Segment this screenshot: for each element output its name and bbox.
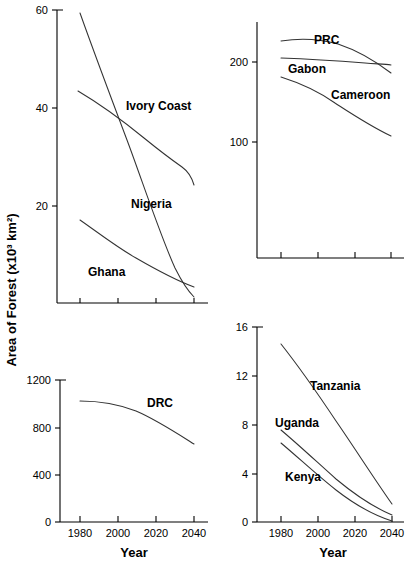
panel4-label-tanzania: Tanzania [310, 379, 361, 393]
forest-area-figure: Area of Forest (x10³ km²) 60 40 20 Ivory… [0, 0, 416, 565]
panel2-label-prc: PRC [314, 33, 340, 47]
panel2-ylabel-100: 100 [230, 136, 248, 148]
panel3-x-axis-title: Year [120, 545, 147, 560]
panel4-label-uganda: Uganda [275, 416, 319, 430]
panel4-ylabel-4: 4 [242, 468, 248, 480]
panel1-ylabel-20: 20 [36, 200, 48, 212]
panel3-xlabel-1980: 1980 [68, 527, 92, 539]
panel4-xlabel-2020: 2020 [343, 527, 367, 539]
panel3-ylabel-400: 400 [33, 469, 51, 481]
panel4-xlabel-2000: 2000 [306, 527, 330, 539]
panel-bottom-left: 1200 800 400 0 1980 2000 2020 2040 DRC Y… [27, 374, 208, 560]
panel4-x-axis-title: Year [319, 545, 346, 560]
panel3-ylabel-1200: 1200 [27, 374, 51, 386]
panel3-ylabel-800: 800 [33, 422, 51, 434]
panel1-label-ivory-coast: Ivory Coast [126, 99, 191, 113]
panel1-label-ghana: Ghana [88, 265, 126, 279]
panel3-ylabel-0: 0 [45, 516, 51, 528]
panel4-ylabel-8: 8 [242, 419, 248, 431]
panel2-label-gabon: Gabon [288, 62, 326, 76]
panel4-xlabel-2040: 2040 [380, 527, 404, 539]
panel3-label-drc: DRC [147, 396, 173, 410]
panel3-xlabel-2000: 2000 [106, 527, 130, 539]
panel3-xlabel-2020: 2020 [144, 527, 168, 539]
y-axis-title: Area of Forest (x10³ km²) [4, 213, 19, 366]
panel3-curve-drc [80, 401, 194, 444]
panel4-xlabel-1980: 1980 [269, 527, 293, 539]
panel4-ylabel-16: 16 [236, 321, 248, 333]
panel4-label-kenya: Kenya [285, 470, 321, 484]
panel3-xlabel-2040: 2040 [182, 527, 206, 539]
panel4-ylabel-0: 0 [242, 516, 248, 528]
panel2-label-cameroon: Cameroon [331, 88, 390, 102]
panel1-label-nigeria: Nigeria [131, 197, 172, 211]
panel1-ylabel-60: 60 [36, 4, 48, 16]
panel2-curve-cameroon [281, 77, 391, 136]
panel-bottom-right: 16 12 8 4 0 1980 2000 2020 2040 Tanzania… [236, 321, 404, 560]
panel-top-right: 200 100 PRC Gabon Cameroon [230, 22, 404, 258]
panel-top-left: 60 40 20 Ivory Coast Nigeria Ghana [36, 4, 208, 303]
panel2-axis [257, 22, 404, 258]
panel1-curve-nigeria [80, 13, 194, 297]
panel4-ylabel-12: 12 [236, 370, 248, 382]
figure-svg: Area of Forest (x10³ km²) 60 40 20 Ivory… [0, 0, 416, 565]
panel2-ylabel-200: 200 [230, 56, 248, 68]
panel1-ylabel-40: 40 [36, 102, 48, 114]
